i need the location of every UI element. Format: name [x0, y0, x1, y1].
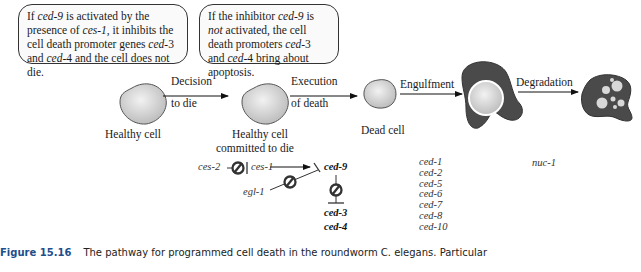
label-execution: Execution [291, 75, 338, 88]
figure-label: Figure 15.16 [0, 247, 71, 258]
committed-cell [242, 84, 288, 124]
label-engulfment: Engulfment [400, 78, 454, 91]
gene-ced-4: ced-4 [324, 221, 347, 232]
label-of-death: of death [291, 97, 328, 110]
stage-committed-line2: committed to die [216, 142, 294, 155]
dead-cell [364, 80, 396, 109]
stage-committed-line1: Healthy cell [232, 128, 288, 141]
vesicle [610, 78, 614, 82]
gene-ces-2: ces-2 [198, 161, 220, 172]
vesicle [597, 98, 608, 109]
vesicle [602, 86, 610, 94]
label-degradation: Degradation [516, 76, 573, 89]
inhibition-symbol [233, 163, 244, 174]
vesicle [618, 100, 625, 107]
gene-item: ced-10 [419, 222, 448, 233]
gene-item: ced-2 [419, 168, 448, 179]
gene-nuc-1: nuc-1 [532, 157, 556, 168]
stage-healthy-cell: Healthy cell [105, 128, 161, 141]
engulfed-dead-cell [469, 81, 503, 115]
vesicle [612, 81, 623, 92]
inhibition-symbol [285, 177, 296, 188]
figure-caption: Figure 15.16The pathway for programmed c… [0, 247, 487, 258]
gene-ced-3: ced-3 [324, 207, 347, 218]
inhibition-symbol [331, 185, 342, 196]
label-decision: Decision [171, 75, 212, 88]
vesicle [613, 105, 617, 109]
gene-ces-1: ces-1 [251, 161, 273, 172]
engulfment-gene-list: ced-1 ced-2 ced-5 ced-6 ced-7 ced-8 ced-… [419, 157, 448, 233]
vesicle [611, 97, 616, 102]
gene-ced-9: ced-9 [324, 161, 347, 172]
healthy-cell [120, 84, 166, 124]
caption-text: The pathway for programmed cell death in… [83, 247, 487, 258]
degrading-cell [581, 75, 632, 121]
stage-dead-cell: Dead cell [361, 124, 405, 137]
gene-egl-1: egl-1 [243, 186, 265, 197]
pathway-graphics [0, 0, 641, 272]
label-to-die: to die [171, 97, 197, 110]
